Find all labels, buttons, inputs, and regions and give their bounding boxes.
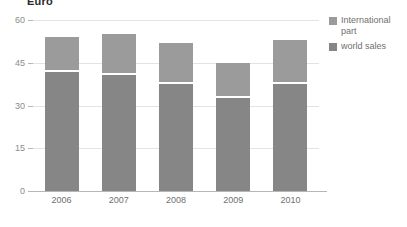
legend-item[interactable]: International part: [329, 15, 405, 37]
bar-segment-divider: [216, 96, 250, 98]
bar-segment-international-part[interactable]: [102, 34, 136, 74]
y-axis-tick-mark: [28, 148, 33, 149]
gridline: [33, 20, 319, 21]
bar-segment-world-sales[interactable]: [273, 83, 307, 191]
chart-container: Euro 015304560 20062007200820092010 Inte…: [0, 0, 407, 227]
x-axis-tick-label: 2010: [280, 195, 300, 205]
y-axis-tick-mark: [28, 191, 33, 192]
bar-segment-world-sales[interactable]: [159, 83, 193, 191]
x-axis-tick-label: 2007: [109, 195, 129, 205]
x-axis-tick-label: 2009: [223, 195, 243, 205]
bar-stack[interactable]: [45, 37, 79, 191]
y-axis-tick-label: 45: [15, 58, 25, 68]
x-axis-line: [33, 191, 327, 192]
bar-stack[interactable]: [102, 34, 136, 191]
y-axis-tick-label: 0: [20, 186, 25, 196]
y-axis-tick-label: 30: [15, 101, 25, 111]
legend-swatch-icon: [329, 17, 337, 25]
x-axis-tick-label: 2006: [52, 195, 72, 205]
bar-segment-divider: [159, 82, 193, 84]
bar-segment-international-part[interactable]: [216, 63, 250, 97]
bar-segment-world-sales[interactable]: [216, 97, 250, 191]
plot-area: [33, 20, 319, 191]
bar-segment-divider: [45, 70, 79, 72]
bar-segment-international-part[interactable]: [45, 37, 79, 71]
bar-segment-international-part[interactable]: [159, 43, 193, 83]
x-axis-tick-label: 2008: [166, 195, 186, 205]
bar-segment-world-sales[interactable]: [45, 71, 79, 191]
legend-label: International part: [341, 15, 405, 37]
bar-segment-world-sales[interactable]: [102, 74, 136, 191]
y-axis-tick-mark: [28, 106, 33, 107]
chart-legend: International partworld sales: [329, 15, 405, 56]
y-axis-tick-label: 15: [15, 143, 25, 153]
legend-swatch-icon: [329, 43, 337, 51]
y-axis-tick-label: 60: [15, 15, 25, 25]
y-axis-tick-mark: [28, 20, 33, 21]
x-axis-labels: 20062007200820092010: [33, 195, 319, 211]
y-axis-tick-mark: [28, 63, 33, 64]
chart-title: Euro: [27, 0, 53, 7]
y-axis-labels: 015304560: [0, 20, 25, 191]
bar-segment-divider: [102, 73, 136, 75]
bar-stack[interactable]: [273, 40, 307, 191]
legend-label: world sales: [341, 41, 386, 52]
legend-item[interactable]: world sales: [329, 41, 405, 52]
bar-segment-international-part[interactable]: [273, 40, 307, 83]
bar-segment-divider: [273, 82, 307, 84]
bar-stack[interactable]: [159, 43, 193, 191]
bar-stack[interactable]: [216, 63, 250, 191]
